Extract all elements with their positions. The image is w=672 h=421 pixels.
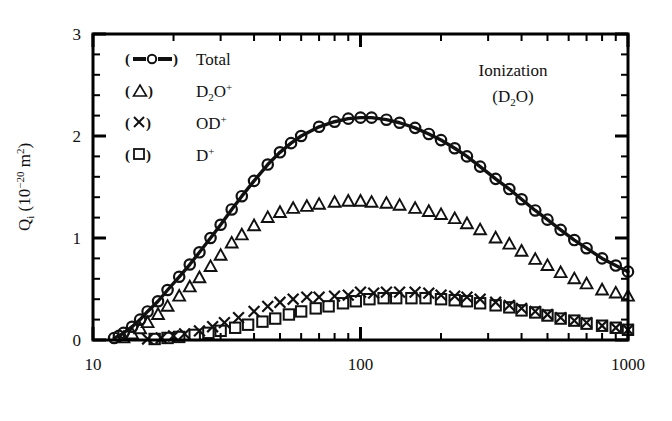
legend-paren-left-total: ( bbox=[125, 51, 130, 68]
legend-paren-right-d: ) bbox=[146, 147, 151, 164]
chart-canvas: 101001000 0123 Qi (10−20 m2) Ionization … bbox=[0, 0, 672, 421]
legend-paren-right-total: ) bbox=[173, 51, 178, 68]
y-tick-label: 1 bbox=[73, 229, 82, 248]
y-tick-label: 0 bbox=[73, 331, 82, 350]
annotation-line-1: Ionization bbox=[479, 61, 548, 80]
y-tick-label: 2 bbox=[73, 127, 82, 146]
x-tick-label: 1000 bbox=[611, 355, 645, 374]
x-tick-label: 100 bbox=[348, 355, 374, 374]
legend-paren-right-od: ) bbox=[146, 115, 151, 132]
legend-paren-right-d2o: ) bbox=[148, 83, 153, 100]
figure-ionization-cross-sections: 101001000 0123 Qi (10−20 m2) Ionization … bbox=[0, 0, 672, 421]
legend-paren-left-d2o: ( bbox=[125, 83, 130, 100]
y-tick-label: 3 bbox=[73, 25, 82, 44]
x-tick-label: 10 bbox=[85, 355, 102, 374]
legend-paren-left-d: ( bbox=[125, 147, 130, 164]
legend-label-total: Total bbox=[196, 50, 231, 69]
legend-paren-left-od: ( bbox=[125, 115, 130, 132]
